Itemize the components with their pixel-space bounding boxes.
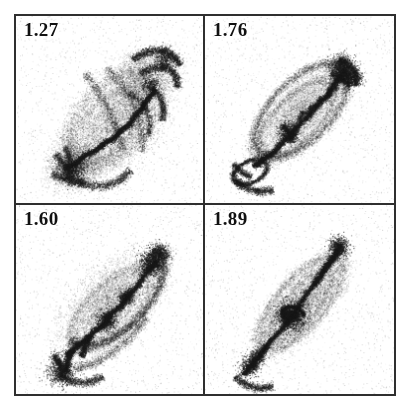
panel-label-bottom-right: 1.89 xyxy=(213,209,247,230)
panel-label-top-right: 1.76 xyxy=(213,20,247,41)
panel-image-top-right xyxy=(205,16,394,203)
panel-bottom-right[interactable]: 1.89 xyxy=(205,205,394,394)
figure-root: 1.27 1.76 1.60 1.89 xyxy=(0,0,416,415)
panel-grid: 1.27 1.76 1.60 1.89 xyxy=(14,14,396,396)
panel-top-left[interactable]: 1.27 xyxy=(16,16,205,205)
panel-image-bottom-right xyxy=(205,205,394,394)
panel-image-top-left xyxy=(16,16,203,203)
panel-label-bottom-left: 1.60 xyxy=(24,209,58,230)
panel-label-top-left: 1.27 xyxy=(24,20,58,41)
panel-image-bottom-left xyxy=(16,205,203,394)
panel-top-right[interactable]: 1.76 xyxy=(205,16,394,205)
panel-bottom-left[interactable]: 1.60 xyxy=(16,205,205,394)
